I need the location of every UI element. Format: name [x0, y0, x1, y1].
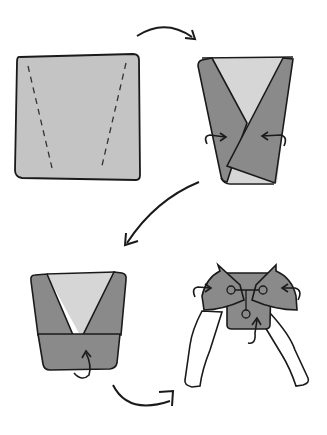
step-1-flat-cloth: [15, 54, 140, 180]
step-4-diaper-on-baby: [185, 265, 309, 387]
arrow-step-1-to-2: [137, 27, 195, 39]
arrow-step-2-to-3: [125, 182, 199, 245]
diaper-folding-diagram: [0, 0, 327, 435]
arrow-step-3-to-4: [113, 385, 173, 406]
step-3-bottom-folded: [31, 272, 126, 378]
baby-leg-left: [185, 311, 222, 387]
step-2-sides-folded: [198, 57, 293, 184]
